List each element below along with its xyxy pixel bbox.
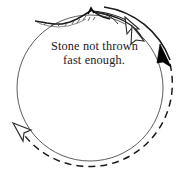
hollow-arrowhead-lower-left <box>13 123 31 141</box>
newtons-cannonball-diagram: Stone not thrown fast enough. <box>0 0 188 187</box>
diagram-canvas <box>0 0 188 187</box>
mountain-left-slope <box>35 10 92 24</box>
outer-dashed-trajectory <box>18 64 172 167</box>
